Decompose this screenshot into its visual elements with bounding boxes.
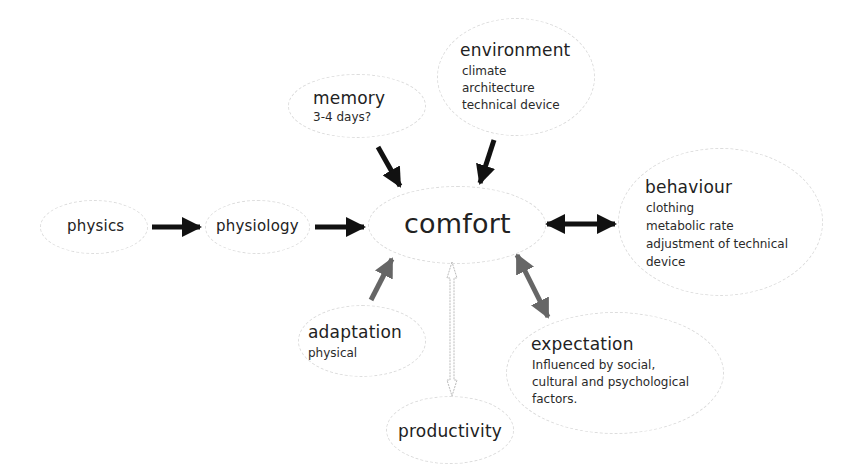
node-productivity-title: productivity [398, 421, 502, 441]
arrow-adaptation-to-comfort [371, 259, 392, 300]
arrow-comfort-productivity [447, 262, 457, 396]
node-expectation-line-1: Influenced by social, [532, 357, 655, 373]
node-expectation-line-3: factors. [532, 391, 577, 407]
node-environment-title: environment [460, 40, 570, 60]
node-physiology-title: physiology [216, 217, 299, 235]
node-expectation [506, 312, 724, 434]
node-behaviour-line-4: device [646, 254, 685, 270]
node-expectation-title: expectation [531, 334, 634, 354]
arrow-memory-to-comfort [378, 147, 400, 186]
node-behaviour-title: behaviour [645, 177, 732, 197]
arrow-environment-to-comfort [480, 140, 494, 183]
node-memory-line-1: 3-4 days? [313, 109, 371, 125]
node-expectation-line-2: cultural and psychological [532, 374, 689, 390]
node-behaviour-line-3: adjustment of technical [646, 236, 788, 252]
node-environment-line-3: technical device [462, 97, 560, 113]
node-behaviour-line-1: clothing [646, 200, 694, 216]
node-environment-line-2: architecture [462, 80, 535, 96]
node-behaviour-line-2: metabolic rate [646, 218, 734, 234]
node-environment-line-1: climate [462, 63, 506, 79]
node-adaptation-line-1: physical [308, 345, 357, 361]
node-adaptation-title: adaptation [308, 322, 402, 342]
node-environment [437, 18, 595, 136]
node-physics-title: physics [67, 217, 124, 235]
node-memory-title: memory [313, 88, 385, 108]
arrow-comfort-expectation [517, 255, 548, 317]
node-comfort-title: comfort [404, 208, 511, 239]
